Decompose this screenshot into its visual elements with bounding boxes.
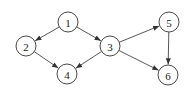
edge-3-to-4 — [76, 51, 102, 68]
edge-1-to-3 — [77, 27, 101, 41]
nodes-layer: 123456 — [16, 12, 179, 85]
node-3: 3 — [100, 36, 120, 56]
node-5: 5 — [159, 12, 179, 32]
node-label: 3 — [107, 41, 113, 53]
node-label: 4 — [64, 69, 70, 81]
node-label: 5 — [166, 17, 172, 29]
edge-3-to-5 — [119, 26, 159, 42]
node-2: 2 — [16, 36, 36, 56]
node-label: 2 — [23, 41, 29, 53]
edge-1-to-2 — [35, 27, 59, 41]
node-6: 6 — [158, 65, 178, 85]
node-label: 1 — [65, 17, 71, 29]
edge-5-to-6 — [168, 32, 169, 65]
node-label: 6 — [165, 70, 171, 82]
edge-2-to-4 — [34, 52, 58, 68]
node-1: 1 — [58, 12, 78, 32]
node-4: 4 — [57, 64, 77, 84]
edge-3-to-6 — [119, 50, 159, 70]
directed-graph-diagram: 123456 — [0, 0, 191, 91]
